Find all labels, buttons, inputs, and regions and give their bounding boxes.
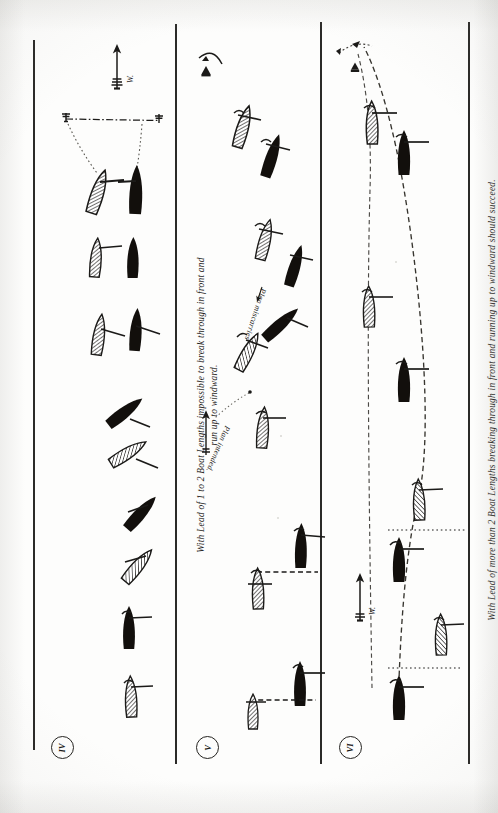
boat-black-c-panel-3 — [390, 537, 424, 582]
boat-hatched-c-panel-3 — [412, 479, 443, 520]
boat-black-a-panel-3 — [396, 130, 429, 175]
boat-hatched-b-panel-3 — [362, 286, 393, 327]
scan-speckle — [280, 435, 282, 437]
scan-speckle — [395, 261, 397, 263]
caption-panel-3: With Lead of more than 2 Boat Lengths br… — [486, 90, 498, 710]
boat-hatched-a-panel-3 — [364, 101, 397, 144]
wind-arrow-panel-3 — [355, 578, 365, 621]
panel-3-artwork — [0, 0, 498, 813]
boat-hatched-d-panel-3 — [434, 614, 464, 655]
scan-speckle — [277, 517, 279, 519]
boat-black-d-panel-3 — [390, 675, 424, 720]
mark-buoy-panel-3 — [336, 41, 372, 72]
wind-label-panel-3: W. — [368, 607, 377, 615]
scanned-page: IV W. — [0, 0, 498, 813]
figure-number-panel-3: VI — [339, 736, 362, 759]
